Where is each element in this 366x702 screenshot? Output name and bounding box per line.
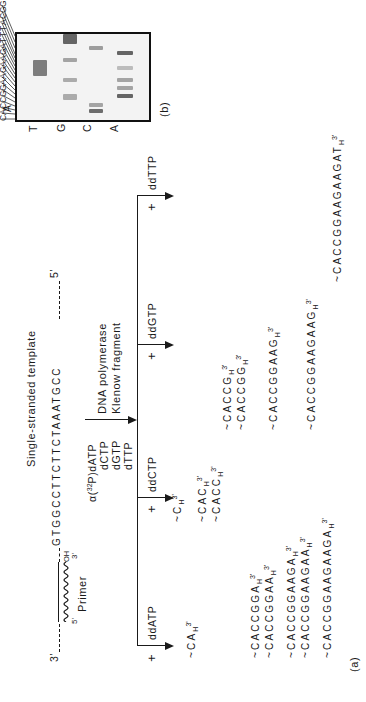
- primer-5prime-label: 5': [70, 618, 79, 624]
- gel-band: [63, 34, 77, 44]
- template-3prime-label: 3': [48, 653, 60, 662]
- branch-ddatp-label: ddATP: [146, 606, 158, 640]
- product-ddctp-3: ~CACCH3': [211, 467, 222, 522]
- gel-band: [89, 103, 103, 107]
- template-strand-line: [58, 562, 59, 622]
- template-dashed-left: [59, 624, 60, 652]
- gel-band: [117, 94, 133, 98]
- gel-band: [117, 78, 133, 82]
- sequencing-gel: [15, 32, 151, 122]
- gel-lane-label-t: T: [27, 125, 39, 132]
- gel-band: [117, 66, 133, 70]
- product-ddttp-1: ~CACCGGAAGAAGATH3': [332, 135, 343, 282]
- product-ddatp-4: ~CACCGGAAGAH3': [286, 546, 297, 658]
- part-a-label: (a): [348, 657, 360, 672]
- product-ddatp-3: ~CACCGGAAH3': [264, 565, 275, 658]
- product-ddatp-6: ~CACCGGAAGAAGAH3': [322, 518, 333, 658]
- branch-ddatp-arrowhead: [165, 642, 174, 650]
- template-5prime-label: 5': [48, 269, 60, 278]
- template-sequence: GTGGCCTTCTTCTAAATGCC: [51, 366, 62, 546]
- product-ddgtp-2: ~CACCGGH3': [236, 355, 247, 430]
- branch-ddgtp-label: ddGTP: [146, 303, 158, 339]
- enzyme-label-1: DNA polymerase: [96, 323, 108, 414]
- product-ddgtp-4: ~CACCGGAAGAAGH3': [306, 299, 317, 430]
- primer-label: Primer: [76, 576, 88, 612]
- product-ddctp-1: ~CH3': [172, 494, 183, 522]
- gel-band: [33, 60, 47, 76]
- branch-ddttp-plus: +: [144, 203, 159, 211]
- gel-band: [117, 51, 133, 55]
- template-title: Single-stranded template: [25, 330, 37, 467]
- gel-lane-label-c: C: [81, 124, 93, 132]
- reaction-arrowhead: [128, 416, 137, 424]
- product-ddatp-5: ~CACCGGAAGAAH3': [300, 537, 311, 658]
- branch-ddttp-arrowhead: [165, 192, 174, 200]
- template-dashed-right: [59, 281, 60, 319]
- branch-ddgtp-plus: +: [144, 352, 159, 360]
- product-ddatp-1: ~CAH3': [186, 621, 197, 658]
- branch-ddctp-line: [137, 497, 166, 498]
- gel-lane-label-a-side: A: [108, 124, 120, 132]
- gel-band: [63, 78, 77, 82]
- main-branch-line: [137, 195, 138, 646]
- dgtp-label: dGTP: [110, 440, 122, 470]
- gel-band: [63, 94, 77, 100]
- branch-ddctp-plus: +: [144, 505, 159, 513]
- part-b-label: (b): [158, 102, 170, 117]
- dctp-label: dCTP: [98, 441, 110, 470]
- branch-ddgtp-line: [137, 344, 166, 345]
- product-ddgtp-1: ~CACCGH3': [222, 365, 233, 430]
- branch-ddttp-line: [137, 195, 166, 196]
- branch-ddttp-label: ddTTP: [146, 155, 158, 190]
- labeled-datp: α(32P)dATP: [86, 444, 98, 502]
- branch-ddatp-plus: +: [144, 654, 159, 662]
- branch-ddatp-line: [137, 645, 166, 646]
- product-ddctp-2: ~CACH3': [197, 476, 208, 522]
- reaction-arrow-shaft: [85, 419, 131, 420]
- branch-ddctp-label: ddCTP: [146, 456, 158, 492]
- gel-band: [117, 86, 133, 90]
- primer-wavy-line: [62, 560, 70, 622]
- gel-band: [63, 58, 77, 62]
- enzyme-label-2: Klenow fragment: [110, 322, 122, 414]
- branch-ddgtp-arrowhead: [165, 341, 174, 349]
- gel-lane-label-g: G: [55, 123, 67, 132]
- gel-band: [89, 109, 103, 113]
- dttp-label: dTTP: [122, 442, 134, 470]
- gel-band: [89, 46, 103, 50]
- primer-3prime-label: 3': [70, 553, 79, 559]
- sanger-sequencing-figure: Single-stranded template 3' GTGGCCTTCTTC…: [0, 0, 366, 702]
- product-ddgtp-3: ~CACCGGAAGH3': [268, 327, 279, 430]
- product-ddatp-2: ~CACCGGAH3': [250, 574, 261, 658]
- gel-read-sequence: CACCGGAAGAAGATTTACGG: [0, 0, 8, 121]
- template-dashed-mid: [59, 548, 60, 562]
